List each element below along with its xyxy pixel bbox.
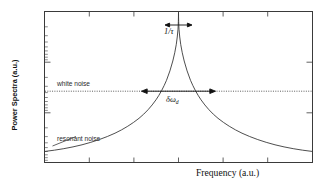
x-axis-title: Frequency (a.u.) (196, 167, 259, 178)
linewidth-label: 1/τ (164, 27, 174, 36)
power-spectra-figure: 102 101 100 10-1 Power Spectra (a.u.) Fr… (0, 0, 328, 189)
y-axis-title: Power Spectra (a.u.) (10, 35, 19, 155)
resonant-noise-label: resonant noise (57, 135, 100, 142)
white-noise-label: white noise (57, 80, 90, 87)
detuning-label: δωd (166, 95, 179, 104)
